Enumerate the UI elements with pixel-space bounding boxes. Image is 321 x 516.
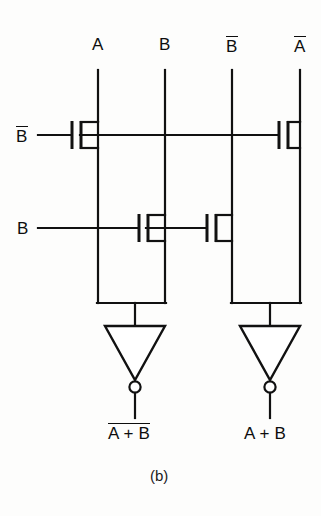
output-bus-left (97, 303, 166, 325)
output-bus-right (231, 303, 301, 325)
gate-label-b-bar: B (16, 126, 28, 145)
transistor-pmos-right-bbar (279, 121, 300, 149)
figure-caption: (b) (150, 467, 168, 484)
output-label-or: A + B (244, 425, 286, 442)
inverter-left (105, 326, 165, 418)
input-label-b-bar: B (226, 36, 238, 55)
input-label-a-bar: A (294, 36, 306, 55)
inverter-right (240, 326, 300, 418)
transistor-nmos-right-b (207, 214, 232, 242)
input-label-a: A (92, 36, 104, 53)
input-label-b: B (159, 36, 171, 53)
gate-label-b: B (17, 220, 29, 237)
output-label-nor: A + B (108, 423, 150, 442)
circuit-figure: A B B A B B A + B A + B (b) (0, 0, 321, 516)
